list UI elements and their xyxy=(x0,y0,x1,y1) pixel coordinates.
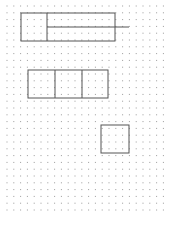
grid-dot xyxy=(61,74,62,75)
grid-dot xyxy=(122,87,123,88)
grid-dot xyxy=(41,80,42,81)
grid-dot xyxy=(122,80,123,81)
grid-dot xyxy=(102,169,103,170)
grid-dot xyxy=(54,101,55,102)
grid-dot xyxy=(109,19,110,20)
grid-dot xyxy=(20,203,21,204)
grid-dot xyxy=(7,101,8,102)
grid-dot xyxy=(34,162,35,163)
grid-dot xyxy=(122,74,123,75)
grid-dot xyxy=(13,12,14,13)
grid-dot xyxy=(61,142,62,143)
grid-dot xyxy=(163,182,164,183)
grid-dot xyxy=(156,210,157,211)
grid-dot xyxy=(75,80,76,81)
grid-dot xyxy=(149,108,150,109)
grid-dot xyxy=(47,94,48,95)
grid-dot xyxy=(61,128,62,129)
grid-dot xyxy=(163,40,164,41)
grid-dot xyxy=(143,19,144,20)
grid-dot xyxy=(13,53,14,54)
grid-dot xyxy=(13,80,14,81)
grid-dot xyxy=(88,33,89,34)
grid-dot xyxy=(61,67,62,68)
grid-dot xyxy=(81,60,82,61)
grid-dot xyxy=(115,182,116,183)
grid-dot xyxy=(13,74,14,75)
grid-dot xyxy=(129,210,130,211)
grid-dot xyxy=(163,60,164,61)
grid-dot xyxy=(129,40,130,41)
grid-dot xyxy=(95,6,96,7)
grid-dot xyxy=(81,210,82,211)
grid-dot xyxy=(149,53,150,54)
grid-dot xyxy=(115,196,116,197)
grid-dot xyxy=(163,176,164,177)
grid-dot xyxy=(13,135,14,136)
grid-dot xyxy=(61,53,62,54)
grid-dot xyxy=(61,46,62,47)
grid-dot xyxy=(122,176,123,177)
grid-dot xyxy=(143,67,144,68)
grid-dot xyxy=(149,135,150,136)
grid-dot xyxy=(61,176,62,177)
grid-dot xyxy=(81,101,82,102)
grid-dot xyxy=(136,67,137,68)
grid-dot xyxy=(81,196,82,197)
grid-dot xyxy=(54,182,55,183)
grid-dot xyxy=(20,67,21,68)
grid-dot xyxy=(81,155,82,156)
grid-dot xyxy=(102,53,103,54)
grid-dot xyxy=(88,142,89,143)
grid-dot xyxy=(102,203,103,204)
grid-dot xyxy=(143,60,144,61)
grid-dot xyxy=(156,53,157,54)
grid-dot xyxy=(68,60,69,61)
grid-dot xyxy=(27,40,28,41)
grid-dot xyxy=(27,148,28,149)
grid-dot xyxy=(34,80,35,81)
grid-dot xyxy=(13,142,14,143)
grid-dot xyxy=(163,87,164,88)
grid-dot xyxy=(156,196,157,197)
grid-dot xyxy=(34,148,35,149)
grid-dot xyxy=(75,94,76,95)
grid-dot xyxy=(13,6,14,7)
grid-dot xyxy=(136,101,137,102)
grid-dot xyxy=(122,203,123,204)
grid-dot xyxy=(68,108,69,109)
grid-dot xyxy=(34,94,35,95)
grid-dot xyxy=(122,6,123,7)
grid-dot xyxy=(143,33,144,34)
grid-dot xyxy=(122,128,123,129)
grid-dot xyxy=(27,162,28,163)
grid-dot xyxy=(109,87,110,88)
grid-dot xyxy=(143,12,144,13)
grid-dot xyxy=(143,148,144,149)
grid-dot xyxy=(136,182,137,183)
grid-dot xyxy=(41,182,42,183)
grid-dot xyxy=(34,203,35,204)
grid-dot xyxy=(88,162,89,163)
grid-dot xyxy=(61,203,62,204)
grid-dot xyxy=(27,33,28,34)
grid-dot xyxy=(136,121,137,122)
grid-dot xyxy=(95,142,96,143)
grid-dot xyxy=(20,60,21,61)
grid-dot xyxy=(115,128,116,129)
grid-dot xyxy=(115,80,116,81)
grid-dot xyxy=(149,176,150,177)
grid-dot xyxy=(41,196,42,197)
grid-dot xyxy=(122,121,123,122)
grid-dot xyxy=(34,155,35,156)
grid-dot xyxy=(34,40,35,41)
grid-dot xyxy=(136,203,137,204)
grid-dot xyxy=(88,40,89,41)
grid-dot xyxy=(68,94,69,95)
grid-dot xyxy=(13,46,14,47)
grid-dot xyxy=(7,60,8,61)
grid-dot xyxy=(109,142,110,143)
grid-dot xyxy=(20,182,21,183)
grid-dot xyxy=(81,169,82,170)
grid-dot xyxy=(81,53,82,54)
